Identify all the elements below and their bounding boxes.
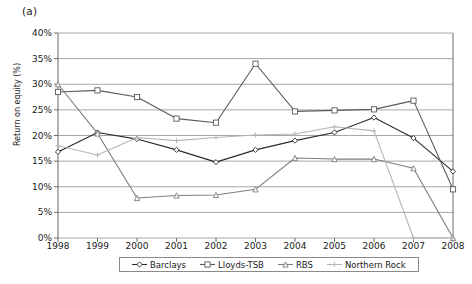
y-tick-label: 30% (12, 79, 52, 89)
data-point (450, 187, 455, 192)
legend-label: Lloyds-TSB (218, 260, 264, 270)
y-tick-label: 35% (12, 54, 52, 64)
legend-label: Barclays (150, 260, 186, 270)
data-point (134, 94, 139, 99)
data-point (95, 88, 100, 93)
y-tick-label: 25% (12, 105, 52, 115)
data-point (292, 109, 297, 114)
y-tick-label: 15% (12, 156, 52, 166)
figure-panel: (a) Return on equity (%) 0%5%10%15%20%25… (0, 0, 472, 284)
data-point (371, 128, 376, 133)
data-point (55, 149, 60, 154)
legend-swatch-diamond-icon (132, 260, 147, 269)
data-point (332, 124, 337, 129)
series-barclays (55, 115, 455, 174)
data-point (411, 98, 416, 103)
series-layer (55, 61, 455, 240)
data-point (174, 138, 179, 143)
data-point (55, 89, 60, 94)
y-tick-label: 40% (12, 28, 52, 38)
legend-label: Northern Rock (345, 260, 406, 270)
x-tick-label: 2008 (429, 241, 472, 251)
series-line (58, 127, 453, 238)
legend-item-barclays: Barclays (132, 260, 186, 270)
y-tick-label: 5% (12, 207, 52, 217)
data-point (371, 115, 376, 120)
legend-item-rbs: RBS (278, 260, 313, 270)
data-point (332, 130, 337, 135)
data-point (213, 160, 218, 165)
data-point (174, 147, 179, 152)
data-point (174, 116, 179, 121)
legend-swatch-triangle-icon (278, 260, 293, 269)
series-northern-rock (55, 124, 455, 240)
legend-label: RBS (296, 260, 313, 270)
y-tick-label: 10% (12, 182, 52, 192)
data-point (253, 132, 258, 137)
legend-item-lloyds-tsb: Lloyds-TSB (200, 260, 264, 270)
legend-swatch-plus-icon (327, 260, 342, 269)
data-point (55, 143, 60, 148)
data-point (95, 152, 100, 157)
data-point (332, 108, 337, 113)
data-point (253, 61, 258, 66)
data-point (371, 107, 376, 112)
series-lloyds-tsb (55, 61, 455, 192)
chart-legend: BarclaysLloyds-TSBRBSNorthern Rock (119, 257, 419, 272)
data-point (411, 235, 416, 240)
y-tick-label: 20% (12, 131, 52, 141)
data-point (292, 138, 297, 143)
legend-item-northern-rock: Northern Rock (327, 260, 406, 270)
data-point (213, 120, 218, 125)
series-line (58, 64, 453, 190)
data-point (253, 147, 258, 152)
legend-swatch-square-icon (200, 260, 215, 269)
